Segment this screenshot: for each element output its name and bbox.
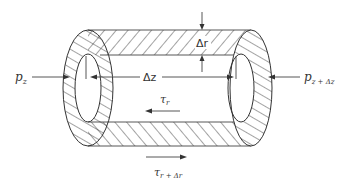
pressure-arrow-left: [32, 75, 70, 80]
delta-r-label: Δr: [196, 37, 209, 50]
pressure-left-label: pz: [15, 70, 28, 86]
delta-z-label: Δz: [143, 71, 157, 84]
bottom-shell-wall: [88, 122, 251, 146]
pressure-right-label: pz + Δz: [304, 70, 335, 86]
pressure-arrow-right: [268, 75, 300, 80]
left-end-ring: [63, 30, 113, 146]
cylindrical-shell-diagram: pz pz + Δz Δz Δr τr τr + Δr: [0, 0, 345, 186]
top-shell-wall: [88, 30, 251, 55]
shear-outer-label: τr + Δr: [154, 166, 183, 180]
shear-arrow-outer: [146, 155, 187, 160]
